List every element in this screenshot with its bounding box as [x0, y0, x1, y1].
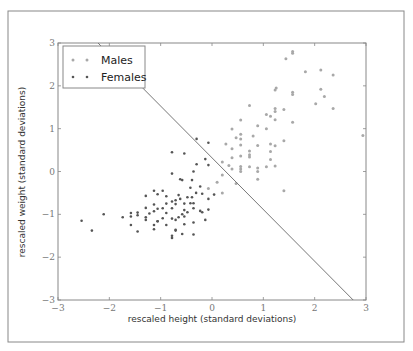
data-point — [265, 113, 268, 116]
data-point — [201, 193, 204, 196]
y-tick-label: 1 — [49, 124, 55, 134]
y-tick-label: −2 — [42, 252, 55, 262]
data-point — [361, 134, 364, 137]
data-point — [165, 224, 168, 227]
data-point — [165, 212, 168, 215]
data-point — [195, 138, 198, 141]
y-axis-label: rescaled weight (standard deviations) — [17, 87, 27, 257]
data-point — [136, 214, 139, 217]
data-point — [284, 57, 287, 60]
data-point — [265, 127, 268, 130]
data-point — [192, 207, 195, 210]
data-point — [171, 235, 174, 238]
legend-marker-females-icon — [86, 76, 89, 79]
x-tick-label: 3 — [363, 303, 369, 313]
data-point — [231, 147, 234, 150]
data-point — [239, 170, 242, 173]
data-point — [227, 164, 230, 167]
data-point — [174, 199, 177, 202]
data-point — [207, 198, 210, 201]
data-point — [256, 170, 259, 173]
data-point — [239, 167, 242, 170]
data-point — [319, 88, 322, 91]
data-point — [145, 207, 148, 210]
data-point — [256, 144, 259, 147]
data-point — [165, 202, 168, 205]
data-point — [256, 124, 259, 127]
data-point — [282, 139, 285, 142]
data-point — [269, 143, 272, 146]
data-point — [239, 133, 242, 136]
scatter-figure: −3−2−10123−3−2−10123 rescaled height (st… — [0, 0, 413, 351]
data-point — [231, 156, 234, 159]
legend-marker-males-icon — [86, 59, 89, 62]
data-point — [121, 216, 124, 219]
data-point — [191, 196, 194, 199]
data-point — [213, 193, 216, 196]
data-point — [221, 161, 224, 164]
legend-label-males: Males — [101, 54, 133, 67]
x-tick-label: 0 — [209, 303, 215, 313]
data-point — [274, 144, 277, 147]
data-point — [269, 150, 272, 153]
data-point — [291, 50, 294, 53]
data-point — [136, 230, 139, 233]
data-point — [91, 229, 94, 232]
data-point — [156, 208, 159, 211]
data-point — [207, 142, 210, 145]
y-tick-label: 3 — [49, 38, 55, 48]
data-point — [145, 219, 148, 222]
data-point — [171, 200, 174, 203]
data-point — [256, 178, 259, 181]
data-point — [177, 194, 180, 197]
legend-marker-males-icon — [72, 59, 75, 62]
data-point — [207, 164, 210, 167]
data-point — [189, 202, 192, 205]
data-point — [191, 179, 194, 182]
data-point — [221, 191, 224, 194]
data-point — [192, 233, 195, 236]
data-point — [282, 108, 285, 111]
legend-marker-females-icon — [72, 76, 75, 79]
data-point — [239, 119, 242, 122]
data-point — [171, 172, 174, 175]
x-tick-label: −2 — [103, 303, 116, 313]
data-point — [323, 95, 326, 98]
data-point — [183, 223, 186, 226]
data-point — [153, 224, 156, 227]
legend: Males Females — [63, 46, 147, 88]
data-point — [174, 219, 177, 222]
data-point — [192, 170, 195, 173]
data-point — [332, 74, 335, 77]
data-point — [248, 149, 251, 152]
data-point — [102, 213, 105, 216]
data-point — [183, 202, 186, 205]
data-point — [231, 167, 234, 170]
data-point — [248, 153, 251, 156]
data-point — [153, 190, 156, 193]
data-point — [148, 212, 151, 215]
data-point — [189, 187, 192, 190]
data-point — [161, 207, 164, 210]
data-point — [183, 215, 186, 218]
legend-label-females: Females — [101, 71, 147, 84]
data-point — [181, 179, 184, 182]
data-point — [319, 69, 322, 72]
data-point — [269, 158, 272, 161]
data-point — [171, 217, 174, 220]
data-point — [145, 195, 148, 198]
data-point — [171, 207, 174, 210]
data-point — [153, 228, 156, 231]
data-point — [130, 224, 133, 227]
y-tick-label: 0 — [49, 167, 55, 177]
data-point — [239, 143, 242, 146]
data-point — [274, 164, 277, 167]
y-tick-label: 2 — [49, 81, 55, 91]
data-point — [248, 104, 251, 107]
data-point — [156, 193, 159, 196]
data-point — [221, 173, 224, 176]
data-point — [291, 91, 294, 94]
data-point — [256, 167, 259, 170]
data-point — [171, 151, 174, 154]
data-point — [207, 208, 210, 211]
